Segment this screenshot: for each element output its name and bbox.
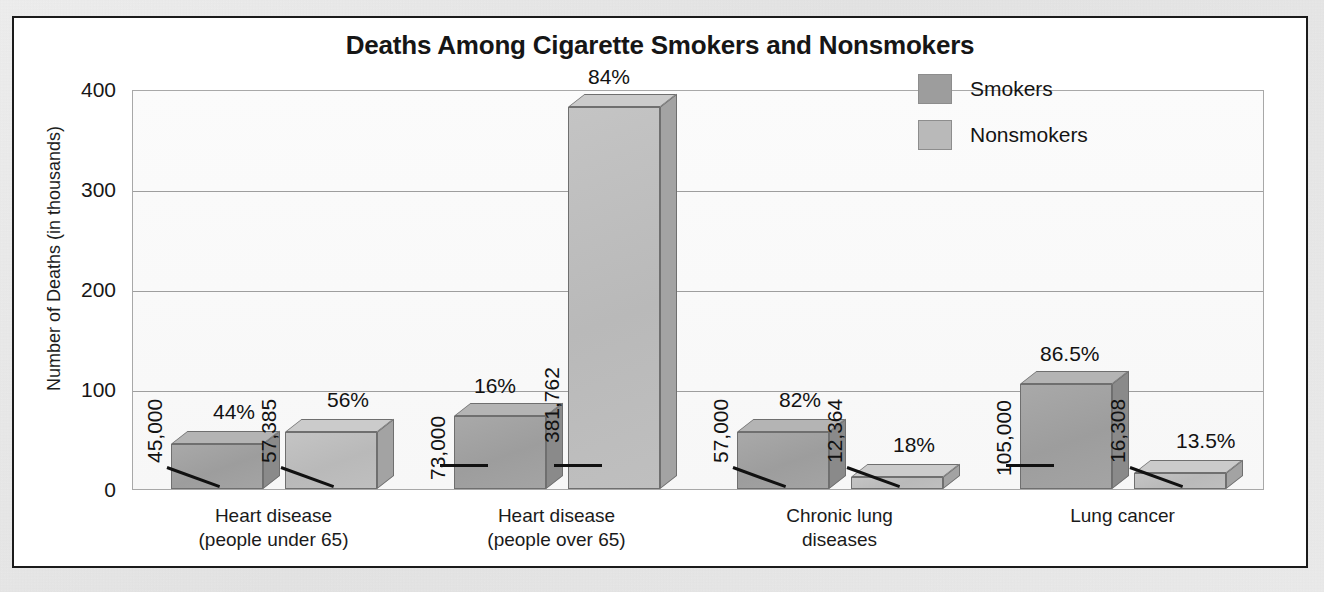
bar-smokers-3 [737,432,829,489]
chart-title: Deaths Among Cigarette Smokers and Nonsm… [14,30,1306,61]
x-axis-category-label-line: diseases [698,528,981,552]
x-axis-category-label-line: Heart disease [415,504,698,528]
bar-front-face [568,107,660,489]
bar-value-label: 45,000 [144,399,165,463]
gridline [133,291,1263,292]
chart-legend: SmokersNonsmokers [918,66,1114,158]
x-axis-category-label-line: Heart disease [132,504,415,528]
x-axis-category-label-line: (people over 65) [415,528,698,552]
legend-swatch-smokers [918,74,952,104]
x-axis-category-label: Heart disease(people over 65) [415,504,698,553]
bar-percent-label: 44% [213,401,255,422]
bar-percent-label: 84% [588,66,630,87]
bar-percent-label: 86.5% [1040,343,1100,364]
bar-value-label: 381,762 [541,367,562,443]
bar-front-face [285,432,377,489]
legend-label: Nonsmokers [970,123,1088,147]
x-axis-category-label-line: Chronic lung [698,504,981,528]
bar-value-label: 12,364 [824,399,845,463]
bar-side-face [377,418,394,489]
bar-percent-label: 16% [474,375,516,396]
bar-value-label: 16,308 [1107,399,1128,463]
legend-item-nonsmokers[interactable]: Nonsmokers [918,112,1114,158]
x-axis-category-label-line: Lung cancer [981,504,1264,528]
chart-frame: Deaths Among Cigarette Smokers and Nonsm… [12,16,1308,568]
bar-percent-label: 56% [327,389,369,410]
value-leader-line [1006,464,1054,467]
x-axis-category-label-line: (people under 65) [132,528,415,552]
bar-percent-label: 82% [779,389,821,410]
bar-side-face [660,94,677,489]
bar-nonsmokers-2 [568,107,660,489]
y-axis-tick-label: 300 [60,179,116,200]
value-leader-line [440,464,488,467]
bar-front-face [737,432,829,489]
y-axis-tick-label: 400 [60,79,116,100]
bar-percent-label: 13.5% [1176,430,1236,451]
x-axis-category-label: Chronic lungdiseases [698,504,981,553]
bar-top-face [285,419,394,432]
legend-label: Smokers [970,77,1053,101]
y-axis-tick-label: 0 [60,479,116,500]
bar-nonsmokers-1 [285,432,377,489]
bar-front-face [454,416,546,489]
bar-smokers-2 [454,416,546,489]
x-axis-category-label: Lung cancer [981,504,1264,528]
x-axis-category-label: Heart disease(people under 65) [132,504,415,553]
bar-front-face [1020,384,1112,489]
bar-smokers-1 [171,444,263,489]
legend-swatch-nonsmokers [918,120,952,150]
value-leader-line [554,464,602,467]
legend-item-smokers[interactable]: Smokers [918,66,1114,112]
bar-percent-label: 18% [893,434,935,455]
bar-smokers-4 [1020,384,1112,489]
gridline [133,191,1263,192]
bar-value-label: 57,000 [710,399,731,463]
bar-front-face [171,444,263,489]
bar-value-label: 73,000 [427,416,448,480]
y-axis-tick-label: 200 [60,279,116,300]
bar-value-label: 57,385 [258,399,279,463]
bar-top-face [1134,460,1243,473]
y-axis-tick-label: 100 [60,379,116,400]
